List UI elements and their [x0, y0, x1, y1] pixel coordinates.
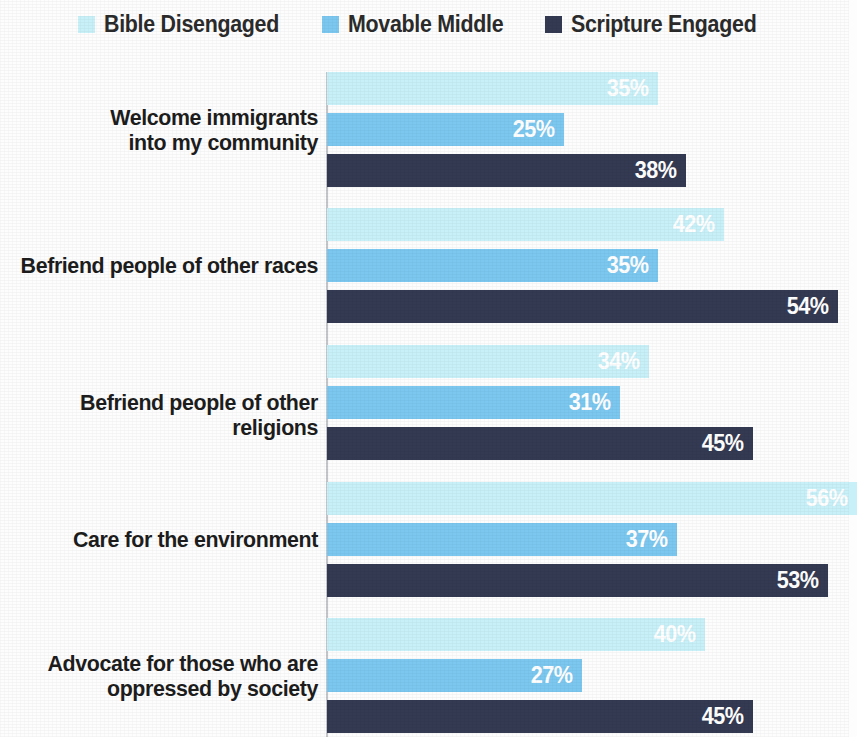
bar-value-label: 31%	[569, 389, 611, 416]
bar-row: 53%	[327, 564, 828, 597]
category-label-line: Care for the environment	[5, 527, 319, 552]
bar-row: 35%	[327, 249, 658, 282]
chart-legend: Bible DisengagedMovable MiddleScripture …	[0, 0, 849, 48]
category-label: Befriend people of other races	[5, 253, 319, 278]
bar: 53%	[327, 564, 828, 597]
bar-value-label: 40%	[654, 621, 696, 648]
bar-row: 31%	[327, 386, 620, 419]
bar-value-label: 34%	[598, 348, 640, 375]
legend-entry: Scripture Engaged	[545, 11, 770, 38]
bar-row: 42%	[327, 208, 724, 241]
bar-value-label: 42%	[673, 211, 715, 238]
bar-value-label: 54%	[787, 293, 829, 320]
category-label: Welcome immigrantsinto my community	[5, 105, 319, 156]
legend-entry: Bible Disengaged	[78, 11, 292, 38]
bar: 35%	[327, 72, 658, 105]
bar-value-label: 56%	[806, 485, 848, 512]
category-label-line: Welcome immigrants	[5, 105, 319, 130]
category-label-line: Befriend people of other races	[5, 253, 319, 278]
category-label: Befriend people of other religions	[5, 390, 319, 441]
bar-value-label: 53%	[777, 567, 819, 594]
legend-swatch-icon	[545, 16, 562, 33]
legend-swatch-icon	[322, 16, 339, 33]
bar: 34%	[327, 345, 649, 378]
legend-label: Bible Disengaged	[104, 11, 279, 38]
bar: 25%	[327, 113, 564, 146]
bar: 40%	[327, 618, 705, 651]
category-label-line: Befriend people of other religions	[5, 390, 319, 441]
bar: 42%	[327, 208, 724, 241]
legend-label: Scripture Engaged	[571, 11, 756, 38]
bar-row: 45%	[327, 700, 753, 733]
category-label: Care for the environment	[5, 527, 319, 552]
bar: 56%	[327, 482, 857, 515]
bar-row: 38%	[327, 154, 686, 187]
bar-row: 56%	[327, 482, 857, 515]
bar-value-label: 27%	[531, 662, 573, 689]
bar: 45%	[327, 700, 753, 733]
bar: 27%	[327, 659, 582, 692]
bar: 37%	[327, 523, 677, 556]
bar-group: Befriend people of other races42%35%54%	[0, 208, 849, 323]
bar-row: 37%	[327, 523, 677, 556]
bar: 45%	[327, 427, 753, 460]
bar-row: 27%	[327, 659, 582, 692]
bar: 31%	[327, 386, 620, 419]
bar-value-label: 45%	[702, 703, 744, 730]
bar-value-label: 45%	[702, 430, 744, 457]
legend-entry: Movable Middle	[322, 11, 515, 38]
bar-row: 25%	[327, 113, 564, 146]
bar-row: 34%	[327, 345, 649, 378]
chart-plot-area: Welcome immigrantsinto my community35%25…	[0, 48, 849, 737]
category-label: Advocate for those who areoppressed by s…	[5, 651, 319, 702]
bar-row: 35%	[327, 72, 658, 105]
bar-value-label: 25%	[513, 116, 555, 143]
category-label-line: oppressed by society	[5, 676, 319, 701]
bar-value-label: 37%	[626, 526, 668, 553]
bar-value-label: 35%	[607, 252, 649, 279]
bar-group: Advocate for those who areoppressed by s…	[0, 618, 849, 733]
legend-swatch-icon	[78, 16, 95, 33]
category-label-line: Advocate for those who are	[5, 651, 319, 676]
bar-group: Befriend people of other religions34%31%…	[0, 345, 849, 460]
legend-label: Movable Middle	[348, 11, 503, 38]
bar-row: 45%	[327, 427, 753, 460]
bar: 54%	[327, 290, 838, 323]
bar-value-label: 35%	[607, 75, 649, 102]
bar-row: 54%	[327, 290, 838, 323]
category-label-line: into my community	[5, 130, 319, 155]
bar-group: Care for the environment56%37%53%	[0, 482, 849, 597]
bar-group: Welcome immigrantsinto my community35%25…	[0, 72, 849, 187]
bar-row: 40%	[327, 618, 705, 651]
bar-value-label: 38%	[635, 157, 677, 184]
bar: 38%	[327, 154, 686, 187]
bar: 35%	[327, 249, 658, 282]
